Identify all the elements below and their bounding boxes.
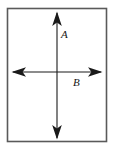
diagram-figure: A B (0, 0, 113, 150)
diagram-canvas (0, 0, 113, 150)
label-b: B (73, 77, 80, 88)
label-a: A (61, 29, 68, 40)
